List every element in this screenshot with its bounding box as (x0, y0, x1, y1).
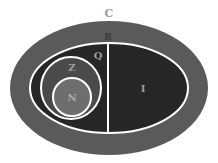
label-z: Z (68, 62, 75, 73)
label-q: Q (94, 50, 103, 61)
label-r: R (104, 32, 112, 42)
label-c: C (105, 7, 114, 20)
label-n: N (67, 92, 76, 103)
number-sets-diagram: C R Q I Z N (0, 0, 218, 163)
label-i: I (141, 83, 146, 94)
